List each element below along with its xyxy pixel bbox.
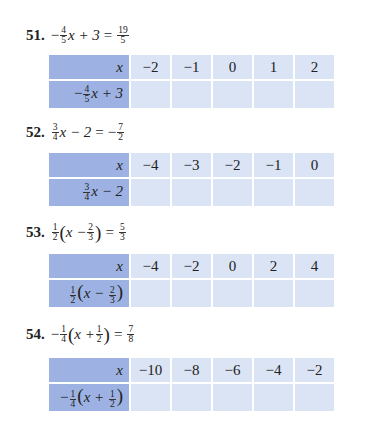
x-value: 0 [213, 254, 252, 278]
x-value: −2 [295, 358, 334, 382]
problem-title: 51. − 45 x + 3 = 195 [26, 24, 130, 46]
answer-cell[interactable] [131, 384, 170, 411]
x-value: 1 [254, 55, 293, 79]
expression-row: −45x + 3 [49, 81, 334, 108]
x-value: 2 [254, 254, 293, 278]
expression-header: 34x − 2 [49, 179, 129, 206]
problem-title: 53. 12 (x − 23) = 53 [26, 221, 127, 243]
x-value: −3 [172, 153, 211, 177]
answer-cell[interactable] [254, 384, 293, 411]
x-value: −8 [172, 358, 211, 382]
answer-cell[interactable] [172, 384, 211, 411]
x-header: x [49, 358, 129, 382]
expression-row: 12(x − 23) [49, 280, 334, 307]
problem-title: 54. − 14 (x + 12) = 78 [26, 323, 135, 345]
fraction: 14 [60, 325, 67, 344]
answer-cell[interactable] [131, 81, 170, 108]
answer-cell[interactable] [295, 384, 334, 411]
fraction: 53 [119, 223, 126, 242]
problem-title: 52. 34 x − 2 = − 72 [26, 121, 125, 143]
expression-row: −14(x + 12) [49, 384, 334, 411]
x-value: 4 [295, 254, 334, 278]
fraction: 23 [87, 223, 94, 242]
answer-cell[interactable] [213, 179, 252, 206]
answer-cell[interactable] [213, 384, 252, 411]
answer-cell[interactable] [131, 179, 170, 206]
x-row: x −2 −1 0 1 2 [49, 55, 334, 79]
x-header: x [49, 55, 129, 79]
fraction: 72 [117, 123, 124, 142]
answer-cell[interactable] [295, 81, 334, 108]
problem-number: 52. [26, 124, 45, 141]
x-value: −10 [131, 358, 170, 382]
answer-cell[interactable] [254, 81, 293, 108]
answer-cell[interactable] [254, 280, 293, 307]
fraction: 45 [60, 26, 67, 45]
x-value: −1 [172, 55, 211, 79]
expression-header: −45x + 3 [49, 81, 129, 108]
fraction: 78 [127, 325, 134, 344]
expression-header: −14(x + 12) [49, 384, 129, 411]
x-value: −4 [131, 254, 170, 278]
x-value: −6 [213, 358, 252, 382]
x-value: −2 [213, 153, 252, 177]
x-value: 0 [295, 153, 334, 177]
x-value: −4 [131, 153, 170, 177]
x-row: x −4 −3 −2 −1 0 [49, 153, 334, 177]
table-of-values: x −10 −8 −6 −4 −2 −14(x + 12) [47, 356, 336, 413]
table-of-values: x −2 −1 0 1 2 −45x + 3 [47, 53, 336, 110]
x-value: −4 [254, 358, 293, 382]
answer-cell[interactable] [172, 81, 211, 108]
x-value: 2 [295, 55, 334, 79]
answer-cell[interactable] [172, 179, 211, 206]
fraction: 12 [96, 325, 103, 344]
problem-number: 53. [26, 224, 45, 241]
answer-cell[interactable] [213, 81, 252, 108]
x-value: −1 [254, 153, 293, 177]
answer-cell[interactable] [213, 280, 252, 307]
answer-cell[interactable] [295, 179, 334, 206]
x-header: x [49, 153, 129, 177]
answer-cell[interactable] [131, 280, 170, 307]
table-of-values: x −4 −2 0 2 4 12(x − 23) [47, 252, 336, 309]
expression-header: 12(x − 23) [49, 280, 129, 307]
expression-row: 34x − 2 [49, 179, 334, 206]
answer-cell[interactable] [172, 280, 211, 307]
x-value: −2 [131, 55, 170, 79]
answer-cell[interactable] [254, 179, 293, 206]
x-value: 0 [213, 55, 252, 79]
problem-number: 54. [26, 326, 45, 343]
x-header: x [49, 254, 129, 278]
table-of-values: x −4 −3 −2 −1 0 34x − 2 [47, 151, 336, 208]
fraction: 12 [52, 223, 59, 242]
answer-cell[interactable] [295, 280, 334, 307]
x-row: x −4 −2 0 2 4 [49, 254, 334, 278]
problem-number: 51. [26, 27, 45, 44]
x-value: −2 [172, 254, 211, 278]
fraction: 195 [117, 26, 129, 45]
fraction: 34 [52, 123, 59, 142]
x-row: x −10 −8 −6 −4 −2 [49, 358, 334, 382]
